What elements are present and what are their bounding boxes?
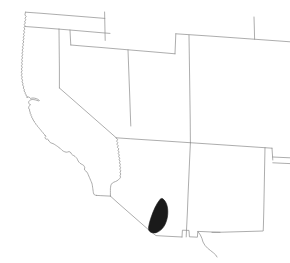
range-map-figure [0, 0, 290, 263]
map-background [0, 0, 290, 263]
map-canvas [0, 0, 290, 263]
